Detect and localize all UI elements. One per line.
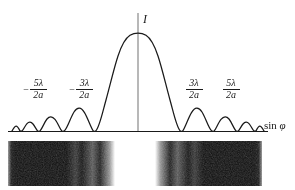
horizontal-axis-label: sin φ [264, 120, 286, 131]
fraction-denominator: 2a [187, 90, 201, 101]
minus-sign-left-outer: − [23, 84, 29, 95]
tick-label-right-inner: 3λ 2a [179, 78, 209, 100]
intensity-axis-label: I [143, 13, 147, 25]
fraction-denominator: 2a [77, 90, 91, 101]
fraction-numerator: 3λ [78, 78, 91, 89]
fraction-numerator: 3λ [187, 78, 200, 89]
fraction-left-outer: 5λ 2a [30, 78, 47, 100]
fringe-band-right [155, 141, 262, 186]
tick-label-right-outer: 5λ 2a [216, 78, 246, 100]
tick-label-left-outer: − 5λ 2a [14, 78, 56, 100]
fraction-denominator: 2a [224, 90, 238, 101]
fraction-left-inner: 3λ 2a [76, 78, 93, 100]
fraction-numerator: 5λ [224, 78, 237, 89]
minus-sign-left-inner: − [69, 84, 75, 95]
diffraction-figure: I sin φ − 5λ 2a − 3λ 2a 3λ 2a 5λ 2a [0, 0, 295, 190]
axis-label-prefix: sin [264, 119, 280, 131]
fringe-photograph [8, 141, 262, 186]
fraction-denominator: 2a [31, 90, 45, 101]
film-grain-texture-left [8, 141, 115, 186]
phi-symbol: φ [280, 119, 286, 131]
fraction-right-outer: 5λ 2a [223, 78, 240, 100]
film-grain-texture-right [155, 141, 262, 186]
fraction-numerator: 5λ [32, 78, 45, 89]
fringe-band-left [8, 141, 115, 186]
tick-label-left-inner: − 3λ 2a [60, 78, 102, 100]
fraction-right-inner: 3λ 2a [186, 78, 203, 100]
